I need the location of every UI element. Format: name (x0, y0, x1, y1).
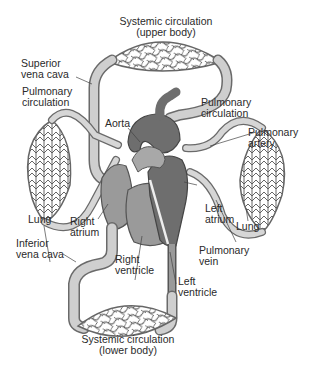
label-pulmonary-circulation-left: Pulmonary circulation (22, 86, 72, 108)
label-pulmonary-artery: Pulmonary artery (248, 127, 298, 149)
label-text: circulation (201, 108, 251, 119)
label-text: Lung (236, 221, 259, 232)
label-text: (lower body) (70, 345, 186, 356)
label-systemic-lower: Systemic circulation (lower body) (70, 334, 186, 356)
label-text: Aorta (105, 118, 130, 129)
label-right-atrium: Right atrium (70, 216, 99, 238)
label-text: atrium (70, 227, 99, 238)
label-text: ventricle (178, 287, 217, 298)
label-text: ventricle (115, 265, 154, 276)
label-right-ventricle: Right ventricle (115, 254, 154, 276)
label-text: circulation (22, 97, 72, 108)
label-text: (upper body) (110, 27, 222, 38)
label-text: Lung (28, 214, 51, 225)
label-text: artery (248, 138, 298, 149)
label-pulmonary-circulation-right: Pulmonary circulation (201, 97, 251, 119)
label-inferior-vena-cava: Inferior vena cava (16, 238, 64, 260)
label-text: vein (199, 256, 249, 267)
circulation-diagram: Systemic circulation (upper body) Superi… (0, 0, 310, 374)
label-aorta: Aorta (105, 118, 130, 129)
label-text: vena cava (21, 69, 69, 80)
label-systemic-upper: Systemic circulation (upper body) (110, 16, 222, 38)
label-lung-left: Lung (28, 214, 51, 225)
systemic-upper-capillary-bed (108, 42, 222, 71)
label-left-atrium: Left atrium (205, 203, 234, 225)
label-text: atrium (205, 214, 234, 225)
label-pulmonary-vein: Pulmonary vein (199, 245, 249, 267)
label-lung-right: Lung (236, 221, 259, 232)
label-text: vena cava (16, 249, 64, 260)
label-superior-vena-cava: Superior vena cava (21, 58, 69, 80)
label-left-ventricle: Left ventricle (178, 276, 217, 298)
